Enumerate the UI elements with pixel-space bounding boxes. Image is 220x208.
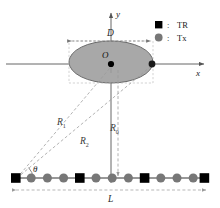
geometry-diagram: y x D O R1: [0, 0, 220, 208]
origin-dot: [108, 61, 114, 67]
target-region-group: D O: [69, 28, 155, 83]
array-element-tx[interactable]: [173, 174, 182, 183]
array-group: L: [11, 173, 209, 204]
l-dimension-label: L: [107, 194, 113, 204]
array-element-tr[interactable]: [200, 173, 210, 183]
r2-label: R2: [79, 136, 89, 148]
y-axis-label: y: [115, 9, 120, 19]
r0-label: R0: [109, 123, 119, 135]
array-element-tr[interactable]: [140, 173, 150, 183]
d-dimension-label: D: [106, 28, 114, 38]
legend-separator-tr: :: [167, 20, 169, 30]
legend-marker-square: [155, 21, 162, 28]
array-element-tx[interactable]: [92, 174, 101, 183]
r1-label: R1: [56, 117, 66, 129]
legend-marker-circle: [155, 34, 163, 42]
array-element-tx[interactable]: [27, 174, 36, 183]
origin-label: O: [102, 50, 109, 60]
array-element-tx[interactable]: [156, 174, 165, 183]
array-element-tr[interactable]: [11, 173, 21, 183]
figure-container: y x D O R1: [0, 0, 220, 208]
legend-label-tr: TR: [177, 20, 188, 30]
axis-group: y x: [6, 9, 204, 183]
x-axis-label: x: [195, 68, 200, 78]
theta-label: θ: [33, 164, 38, 174]
array-element-tx[interactable]: [124, 174, 133, 183]
range-lines-group: R1 R2 R0: [17, 67, 150, 178]
r1-range-line: [17, 67, 150, 178]
legend-separator-tx: :: [167, 33, 169, 43]
array-element-tx[interactable]: [189, 174, 198, 183]
array-element-tx[interactable]: [108, 174, 117, 183]
array-element-tr[interactable]: [75, 173, 85, 183]
target-edge-marker: [149, 61, 156, 68]
array-element-tx[interactable]: [43, 174, 52, 183]
array-element-tx[interactable]: [59, 174, 68, 183]
legend: : TR : Tx: [155, 20, 188, 43]
legend-label-tx: Tx: [177, 33, 187, 43]
